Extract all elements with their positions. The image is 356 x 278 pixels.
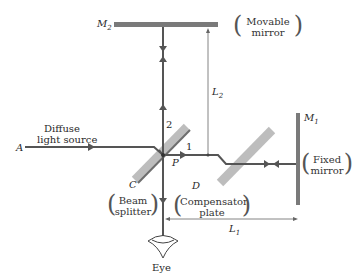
label-eye: Eye <box>152 263 171 273</box>
label-point-d: D <box>192 181 200 191</box>
fixed-mirror-m1 <box>296 113 300 205</box>
label-movable-mirror: Movablemirror <box>240 16 296 38</box>
label-l1: L1 <box>229 224 240 238</box>
label-point-a: A <box>16 143 23 153</box>
label-l2: L2 <box>212 87 223 101</box>
label-compensator-plate: Compensatorplate <box>180 196 244 218</box>
label-fixed-mirror: Fixedmirror <box>308 154 346 176</box>
label-beam-splitter: Beamsplitter <box>114 195 152 217</box>
label-diffuse-light-source: Diffuselight source <box>37 123 87 145</box>
label-point-c: C <box>129 180 137 190</box>
label-m2: M2 <box>97 19 112 33</box>
label-m1: M1 <box>304 113 319 127</box>
label-point-p: P <box>172 158 179 168</box>
eye-icon <box>148 236 178 259</box>
label-beam-1: 1 <box>186 142 192 152</box>
movable-mirror-m2 <box>114 22 218 27</box>
compensator-plate <box>220 130 272 183</box>
label-beam-2: 2 <box>166 120 172 130</box>
